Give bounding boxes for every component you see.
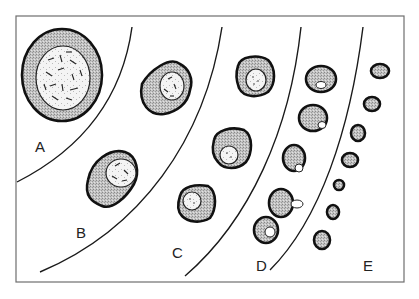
- cell-stage-d-5: [254, 217, 278, 243]
- cell-stage-e-7: [314, 231, 330, 249]
- cell-stage-e-5: [334, 180, 344, 190]
- cell-body: [269, 189, 293, 217]
- cell-stage-e-6: [327, 205, 339, 219]
- stage-label-a: A: [35, 138, 45, 155]
- stage-label-c: C: [172, 244, 183, 261]
- cell-stage-diagram: A B C D E: [0, 0, 419, 299]
- nucleus: [220, 146, 238, 164]
- cell-stage-c-1: [237, 57, 274, 96]
- stage-label-e: E: [363, 257, 373, 274]
- stage-label-b: B: [76, 224, 86, 241]
- nucleus: [265, 227, 275, 237]
- cell-stage-e-2: [364, 97, 380, 111]
- cell-stage-a: [22, 29, 102, 121]
- nucleus: [316, 82, 326, 89]
- nucleus: [36, 46, 90, 110]
- cell-stage-e-3: [351, 125, 365, 141]
- nucleus: [106, 159, 136, 187]
- nucleus: [183, 192, 201, 210]
- nucleus: [318, 122, 326, 129]
- cell-stage-c-3: [178, 185, 215, 221]
- nucleus: [291, 200, 303, 208]
- cell-stage-d-3: [283, 145, 305, 172]
- cell-stage-c-2: [213, 128, 251, 168]
- cell-stage-d-1: [306, 66, 336, 92]
- nucleus: [246, 69, 266, 91]
- stage-label-d: D: [256, 257, 267, 274]
- cell-stage-e-4: [342, 153, 358, 167]
- nucleus: [295, 164, 303, 172]
- cell-stage-d-2: [299, 105, 327, 131]
- cell-stage-e-1: [371, 64, 389, 78]
